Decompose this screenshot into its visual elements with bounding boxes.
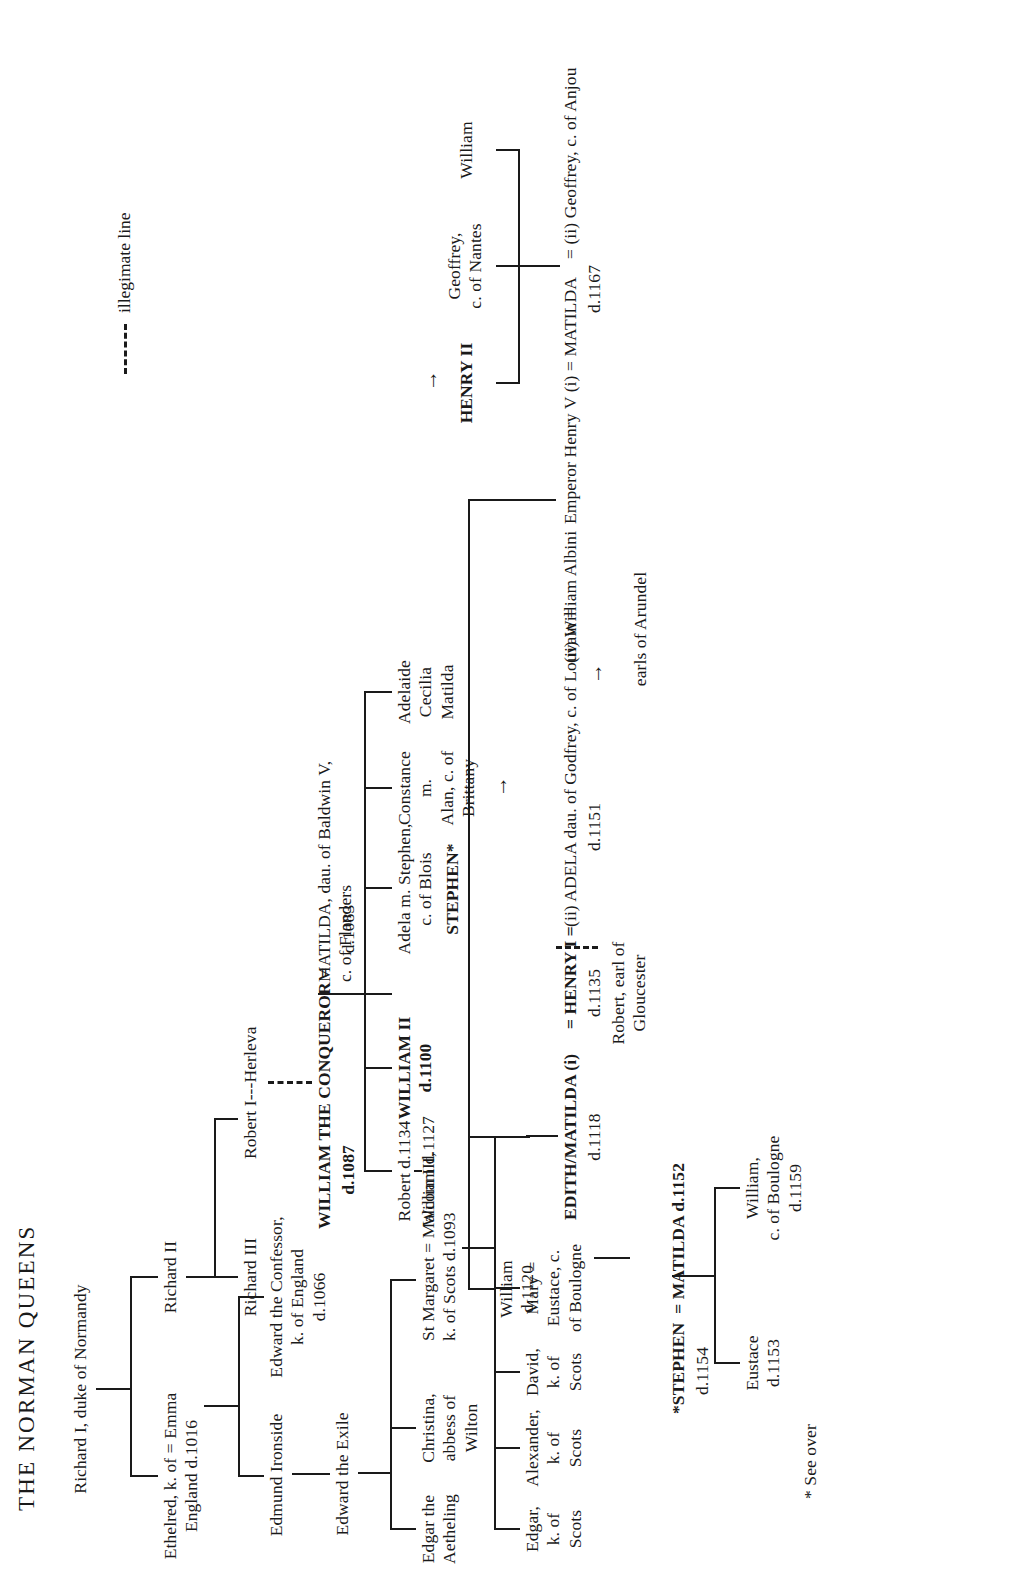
connector-exile-children-bar bbox=[390, 1279, 392, 1529]
connector-constance-drop bbox=[364, 787, 392, 789]
connector-william-1120-drop bbox=[468, 1288, 494, 1290]
connector-robert-i-drop bbox=[214, 1118, 238, 1120]
node-matilda-empress-death: d.1167 bbox=[584, 265, 605, 313]
node-henry-ii: HENRY II bbox=[456, 343, 477, 424]
connector-stephen-marriage-down bbox=[672, 1275, 716, 1277]
connector-edgar-aetheling-drop bbox=[390, 1528, 416, 1530]
connector-eustace-drop bbox=[714, 1362, 740, 1364]
connector-edith-drop bbox=[494, 1136, 520, 1138]
node-stephen-death: d.1154 bbox=[692, 1347, 713, 1395]
node-edgar-aetheling: Edgar the Aetheling bbox=[418, 1494, 461, 1564]
constance-arrow-icon: → bbox=[490, 776, 511, 797]
connector-henry-i-drop bbox=[364, 993, 392, 995]
connector-edgar-scots-drop bbox=[494, 1528, 520, 1530]
connector-richard-ii-children-bar bbox=[214, 1118, 216, 1278]
node-christina: Christina, abbess of Wilton bbox=[418, 1393, 482, 1463]
node-stephen-star: STEPHEN* bbox=[442, 843, 463, 934]
henry-ii-arrow-icon: → bbox=[420, 370, 441, 391]
node-richard-i: Richard I, duke of Normandy bbox=[70, 1284, 91, 1493]
footnote-see-over: * See over bbox=[800, 1424, 821, 1499]
page-title: THE NORMAN QUEENS bbox=[14, 1224, 40, 1511]
connector-william-ii-drop bbox=[364, 1067, 392, 1069]
node-richard-ii: Richard II bbox=[160, 1241, 181, 1313]
node-edith-matilda-death: d.1118 bbox=[584, 1113, 605, 1160]
connector-mary-marriage-down bbox=[594, 1257, 630, 1259]
node-william-conqueror: WILLIAM THE CONQUEROR = bbox=[314, 968, 335, 1229]
node-alexander-scots: Alexander, k. of Scots bbox=[522, 1409, 586, 1487]
node-emperor-henry-v: Emperor Henry V (i) = MATILDA bbox=[560, 277, 581, 524]
connector-matilda-geoffrey-marriage-down bbox=[520, 265, 560, 267]
connector-gen2-left-drop bbox=[130, 1475, 158, 1477]
node-william-ii: WILLIAM II d.1100 bbox=[394, 1017, 437, 1120]
node-constance: Constance m. Alan, c. of Brittany bbox=[394, 751, 479, 826]
connector-richard-ii-down bbox=[186, 1276, 216, 1278]
node-ethelred-emma: Ethelred, k. of = Emma England d.1016 bbox=[160, 1393, 203, 1560]
connector-david-scots-drop bbox=[494, 1371, 520, 1373]
connector-ethelred-children-bar bbox=[238, 1296, 240, 1476]
node-david-scots: David, k. of Scots bbox=[522, 1348, 586, 1396]
node-edith-matilda: EDITH/MATILDA (i) bbox=[560, 1054, 581, 1220]
node-mary-eustace: Mary = Eustace, c. of Boulogne bbox=[522, 1244, 586, 1332]
node-richard-iii: Richard III bbox=[240, 1238, 261, 1316]
node-henry-i-death: d.1135 bbox=[584, 969, 605, 1017]
connector-alexander-scots-drop bbox=[494, 1447, 520, 1449]
connector-stephen-children-bar bbox=[714, 1187, 716, 1363]
node-william-albini: (ii) William Albini bbox=[560, 531, 581, 663]
connector-edward-exile-down bbox=[358, 1472, 392, 1474]
connector-emma-down bbox=[204, 1405, 240, 1407]
node-william-conqueror-death: d.1087 bbox=[338, 1145, 359, 1195]
connector-illegitimate-henry-robert bbox=[556, 946, 598, 949]
connector-william-anjou-drop bbox=[496, 149, 520, 151]
connector-mary-drop bbox=[494, 1287, 520, 1289]
connector-gen2-right-drop bbox=[130, 1276, 158, 1278]
connector-conqueror-marriage-down bbox=[318, 993, 366, 995]
node-earls-arundel: earls of Arundel bbox=[630, 572, 651, 686]
connector-henryi-matilda-marriage-down bbox=[528, 1135, 558, 1137]
connector-richard-iii-drop bbox=[214, 1276, 238, 1278]
node-geoffrey-anjou: = (ii) Geoffrey, c. of Anjou bbox=[560, 67, 581, 259]
connector-robert-william-tick bbox=[414, 1170, 422, 1172]
rotated-chart-canvas: THE NORMAN QUEENS illegimate line Richar… bbox=[0, 0, 1011, 1589]
node-adela-stephen: Adela m. Stephen, c. of Blois bbox=[394, 824, 437, 955]
connector-edmund-down bbox=[292, 1473, 330, 1475]
connector-geoffrey-nantes-drop bbox=[496, 265, 520, 267]
node-adela-louvain-death: d.1151 bbox=[584, 803, 605, 851]
connector-margaret-drop bbox=[390, 1279, 416, 1281]
node-edmund-ironside: Edmund Ironside bbox=[266, 1414, 287, 1537]
connector-illegitimate-robert-william bbox=[268, 1081, 312, 1084]
genealogy-page: THE NORMAN QUEENS illegimate line Richar… bbox=[0, 0, 1011, 1589]
node-henry-i: = HENRY I = bbox=[560, 926, 581, 1029]
connector-margaret-children-bar bbox=[494, 1137, 496, 1529]
connector-richard-i-down bbox=[96, 1388, 132, 1390]
node-william-boulogne: William, c. of Boulogne d.1159 bbox=[742, 1136, 806, 1241]
legend-label: illegimate line bbox=[114, 212, 135, 313]
connector-edmund-drop bbox=[238, 1475, 264, 1477]
node-stephen-matilda: *STEPHEN = MATILDA d.1152 bbox=[668, 1163, 689, 1414]
connector-conqueror-children-bar bbox=[364, 691, 366, 1171]
node-william-anjou: William bbox=[456, 121, 477, 178]
node-robert-i-herleva: Robert I---Herleva bbox=[240, 1027, 261, 1160]
connector-adela-drop bbox=[364, 887, 392, 889]
connector-matilda-empress-link bbox=[468, 499, 470, 1289]
node-robert-1134: Robert d.1134 bbox=[394, 1121, 415, 1222]
connector-daughters-drop bbox=[364, 691, 392, 693]
connector-matilda-empress-drop bbox=[468, 499, 556, 501]
connector-christina-drop bbox=[390, 1427, 416, 1429]
arundel-arrow-icon: → bbox=[585, 663, 606, 684]
connector-william-boulogne-drop bbox=[714, 1187, 740, 1189]
node-adelaide-cecilia-matilda: Adelaide Cecilia Matilda bbox=[394, 660, 458, 724]
node-edgar-scots: Edgar, k. of Scots bbox=[522, 1506, 586, 1552]
node-edward-confessor: Edward the Confessor, k. of England d.10… bbox=[266, 1216, 330, 1377]
node-matilda-flanders-death: d.1083 bbox=[338, 905, 359, 954]
connector-gen2-bar bbox=[130, 1276, 132, 1476]
legend-dashed-line bbox=[124, 324, 127, 374]
node-edward-exile: Edward the Exile bbox=[332, 1412, 353, 1535]
connector-henry-ii-drop bbox=[496, 382, 520, 384]
node-geoffrey-nantes: Geoffrey, c. of Nantes bbox=[444, 223, 487, 308]
node-eustace: Eustace d.1153 bbox=[742, 1335, 785, 1390]
connector-robert-curthose-drop bbox=[364, 1170, 392, 1172]
connector-mary-child-bar bbox=[628, 1257, 630, 1259]
node-robert-gloucester: Robert, earl of Gloucester bbox=[608, 941, 651, 1044]
